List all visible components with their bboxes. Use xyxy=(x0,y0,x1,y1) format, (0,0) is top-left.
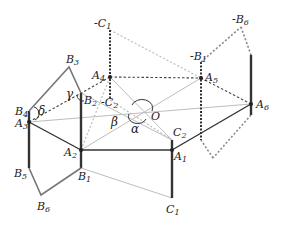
angle-gamma: γ xyxy=(66,87,74,101)
label-C2: C2 xyxy=(173,126,187,140)
angle-delta: δ xyxy=(38,104,45,118)
label-O: O xyxy=(151,110,160,123)
label-neg-B1: -B1 xyxy=(190,50,207,64)
label-A5: A5 xyxy=(204,71,218,85)
gray-dotted-lines xyxy=(201,27,251,158)
label-C1: C1 xyxy=(166,203,180,217)
angle-beta: β xyxy=(110,115,118,129)
label-A6: A6 xyxy=(255,98,269,112)
point-labels: A1 A2 A3 A4 A5 A6 O B1 B2 B3 B4 B5 B6 C1… xyxy=(13,13,269,217)
label-A1: A1 xyxy=(173,150,187,164)
label-B4: B4 xyxy=(14,105,28,119)
label-B5: B5 xyxy=(13,167,27,181)
label-neg-C1: -C1 xyxy=(94,17,111,31)
label-B6: B6 xyxy=(36,200,50,214)
dark-solid-lines xyxy=(29,104,251,150)
label-B3: B3 xyxy=(65,53,79,67)
angle-alpha: α xyxy=(131,122,139,136)
label-neg-B6: -B6 xyxy=(232,13,249,27)
geometry-diagram: A1 A2 A3 A4 A5 A6 O B1 B2 B3 B4 B5 B6 C1… xyxy=(0,0,282,226)
label-neg-C2: -C2 xyxy=(101,96,118,110)
b-polygon-lines xyxy=(29,67,81,195)
label-A3: A3 xyxy=(14,117,28,131)
label-B1: B1 xyxy=(77,170,91,184)
label-A2: A2 xyxy=(63,146,77,160)
label-B2: B2 xyxy=(83,94,97,108)
label-A4: A4 xyxy=(91,69,105,83)
